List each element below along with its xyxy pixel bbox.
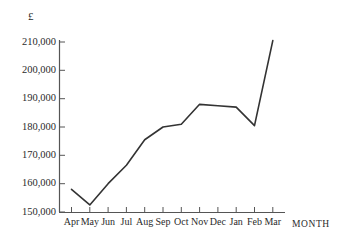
x-tick-label: Apr bbox=[64, 216, 80, 227]
x-tick-label: May bbox=[81, 216, 99, 227]
x-tick-label: Aug bbox=[136, 216, 153, 227]
x-tick-label: Feb bbox=[247, 216, 262, 227]
line-chart: £ 210,000 200,000 190,000 180,000 170,00… bbox=[0, 0, 349, 249]
x-tick-label: Dec bbox=[210, 216, 226, 227]
x-tick-label: Oct bbox=[174, 216, 188, 227]
x-tick-label: Sep bbox=[156, 216, 171, 227]
plot-area bbox=[0, 0, 349, 249]
data-line-series bbox=[72, 41, 273, 205]
x-tick-label: Nov bbox=[191, 216, 208, 227]
x-axis-line-group bbox=[59, 207, 285, 213]
x-tick-label: Mar bbox=[264, 216, 281, 227]
x-tick-label: Jan bbox=[230, 216, 243, 227]
x-axis-ticks bbox=[72, 207, 273, 213]
y-axis-line-group bbox=[60, 40, 66, 212]
x-tick-label: Jun bbox=[101, 216, 115, 227]
x-axis-title: MONTH bbox=[292, 219, 330, 229]
x-tick-label: Jul bbox=[121, 216, 133, 227]
